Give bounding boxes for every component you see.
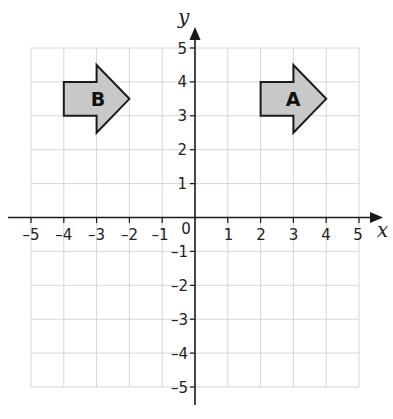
shape-a-label: A bbox=[286, 88, 301, 110]
svg-text:–1: –1 bbox=[151, 226, 168, 244]
svg-text:4: 4 bbox=[177, 73, 187, 91]
svg-text:3: 3 bbox=[177, 107, 187, 125]
svg-text:–4: –4 bbox=[55, 226, 72, 244]
svg-text:4: 4 bbox=[321, 226, 331, 244]
svg-text:3: 3 bbox=[289, 226, 299, 244]
x-tick-labels: –5 –4 –3 –2 –1 1 2 3 4 5 bbox=[22, 226, 362, 244]
arrow-shape-b: B bbox=[64, 65, 130, 133]
svg-text:–5: –5 bbox=[22, 226, 39, 244]
svg-text:1: 1 bbox=[224, 226, 234, 244]
y-axis-arrowhead-icon bbox=[190, 27, 201, 40]
svg-text:–2: –2 bbox=[121, 226, 138, 244]
svg-text:2: 2 bbox=[256, 226, 266, 244]
origin-label: 0 bbox=[181, 220, 191, 238]
svg-text:–3: –3 bbox=[171, 311, 188, 329]
svg-text:–2: –2 bbox=[171, 277, 188, 295]
svg-text:–4: –4 bbox=[171, 345, 188, 363]
svg-text:–5: –5 bbox=[171, 379, 188, 397]
arrow-shape-a: A bbox=[261, 65, 327, 133]
shape-b-label: B bbox=[91, 88, 105, 110]
svg-text:–1: –1 bbox=[171, 243, 188, 261]
svg-text:5: 5 bbox=[353, 226, 363, 244]
svg-text:1: 1 bbox=[177, 175, 187, 193]
x-axis-label: x bbox=[377, 218, 388, 242]
svg-text:–3: –3 bbox=[88, 226, 105, 244]
y-axis-label: y bbox=[177, 5, 190, 29]
coordinate-grid: B A –5 –4 –3 –2 –1 bbox=[0, 0, 393, 419]
svg-text:2: 2 bbox=[177, 141, 187, 159]
svg-text:5: 5 bbox=[177, 40, 187, 58]
